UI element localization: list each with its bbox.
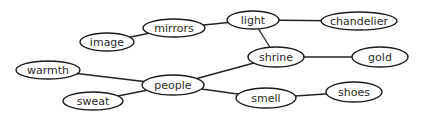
node-label: image bbox=[90, 36, 124, 49]
node-label: warmth bbox=[27, 64, 69, 77]
node-mirrors: mirrors bbox=[143, 19, 205, 37]
node-chandelier: chandelier bbox=[321, 12, 397, 30]
node-people: people bbox=[142, 75, 204, 95]
node-label: sweat bbox=[77, 95, 110, 108]
node-label: people bbox=[154, 79, 192, 92]
node-sweat: sweat bbox=[63, 92, 123, 110]
node-label: shoes bbox=[338, 86, 370, 99]
node-label: light bbox=[241, 14, 266, 27]
nodes-layer: imagemirrorslightchandelierwarmthsweatpe… bbox=[16, 11, 408, 110]
node-light: light bbox=[227, 11, 279, 29]
node-smell: smell bbox=[236, 88, 296, 108]
node-gold: gold bbox=[352, 47, 408, 67]
node-label: chandelier bbox=[330, 15, 388, 28]
node-label: shrine bbox=[259, 51, 293, 64]
node-image: image bbox=[80, 33, 134, 51]
concept-map: imagemirrorslightchandelierwarmthsweatpe… bbox=[0, 0, 423, 116]
node-label: gold bbox=[368, 51, 392, 64]
node-warmth: warmth bbox=[16, 61, 80, 79]
node-shoes: shoes bbox=[326, 82, 382, 102]
node-label: mirrors bbox=[154, 22, 194, 35]
node-shrine: shrine bbox=[248, 47, 304, 67]
node-label: smell bbox=[251, 92, 280, 105]
